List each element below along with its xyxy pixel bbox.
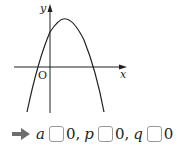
blank-box-p[interactable] — [98, 126, 113, 142]
answer-row: a 0 , p 0 , q 0 — [12, 124, 173, 144]
value-p: 0 — [115, 125, 125, 143]
y-axis-arrow-icon — [48, 4, 53, 12]
value-a: 0 — [66, 125, 76, 143]
separator-p: , — [124, 125, 129, 143]
origin-label: O — [38, 69, 47, 82]
value-q: 0 — [164, 125, 174, 143]
right-arrow-icon — [12, 128, 30, 140]
variable-q: q — [133, 125, 143, 143]
blank-box-q[interactable] — [147, 126, 162, 142]
x-axis-label: x — [120, 68, 127, 81]
variable-p: p — [84, 125, 94, 143]
parabola-graph: y x O — [0, 0, 178, 120]
blank-box-a[interactable] — [49, 126, 64, 142]
y-axis-label: y — [39, 2, 47, 15]
separator-a: , — [76, 125, 81, 143]
parabola-curve — [27, 19, 104, 112]
variable-a: a — [36, 125, 45, 143]
